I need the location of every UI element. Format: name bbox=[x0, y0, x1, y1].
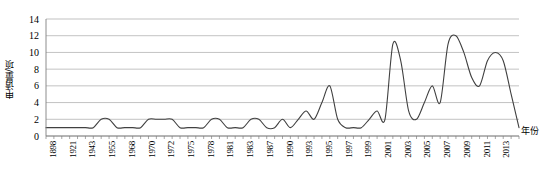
x-tick-label: 1999 bbox=[363, 141, 373, 158]
x-tick-label: 1972 bbox=[166, 141, 176, 158]
y-tick-label: 2 bbox=[34, 114, 39, 125]
gridlines-group bbox=[46, 19, 519, 136]
x-tick-label: 2001 bbox=[383, 141, 393, 158]
x-tick-label: 1943 bbox=[87, 141, 97, 158]
y-tick-label: 4 bbox=[34, 97, 39, 108]
x-tick-label: 1981 bbox=[225, 141, 235, 158]
y-tick-label: 14 bbox=[29, 14, 39, 25]
x-tick-label: 2011 bbox=[482, 141, 492, 157]
x-tick-label: 1997 bbox=[344, 141, 354, 158]
y-tick-labels-group: 02468101214 bbox=[29, 14, 39, 142]
x-tick-label: 1955 bbox=[107, 141, 117, 158]
y-tick-label: 12 bbox=[29, 30, 39, 41]
x-tick-label: 1995 bbox=[324, 141, 334, 158]
y-tick-label: 8 bbox=[34, 64, 39, 75]
x-tick-label: 1990 bbox=[285, 141, 295, 158]
x-tick-label: 1993 bbox=[304, 141, 314, 158]
y-axis-title-text: 申请量/项 bbox=[2, 60, 15, 99]
data-series-line bbox=[46, 35, 519, 129]
y-tick-label: 0 bbox=[34, 131, 39, 142]
x-tick-label: 1970 bbox=[147, 141, 157, 158]
y-axis-title: 申请量/项 bbox=[0, 38, 16, 122]
x-tick-label: 2003 bbox=[403, 141, 413, 158]
x-tick-label: 1898 bbox=[48, 141, 58, 158]
y-tick-label: 6 bbox=[34, 80, 39, 91]
x-tick-label: 1975 bbox=[186, 141, 196, 158]
x-tick-label: 1978 bbox=[206, 141, 216, 158]
x-tick-label: 2007 bbox=[442, 141, 452, 158]
x-tick-label: 1983 bbox=[245, 141, 255, 158]
x-tick-label: 1987 bbox=[265, 141, 275, 158]
x-tick-label: 2005 bbox=[422, 141, 432, 158]
x-tick-label: 2013 bbox=[501, 141, 511, 158]
x-tick-label: 2009 bbox=[462, 141, 472, 158]
x-axis-title: 年份 bbox=[521, 124, 539, 137]
chart-container: 申请量/项 年份 02468101214 1898192119431955196… bbox=[0, 0, 551, 182]
y-tick-label: 10 bbox=[29, 47, 39, 58]
x-tick-label: 1968 bbox=[127, 141, 137, 158]
x-tick-label: 1921 bbox=[68, 141, 78, 158]
